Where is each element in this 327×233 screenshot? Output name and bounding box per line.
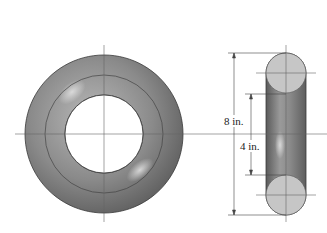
dimension-label-outer: 8 in. xyxy=(224,115,244,127)
dimension-label-inner: 4 in. xyxy=(240,140,260,152)
torus-diagram xyxy=(0,0,327,233)
